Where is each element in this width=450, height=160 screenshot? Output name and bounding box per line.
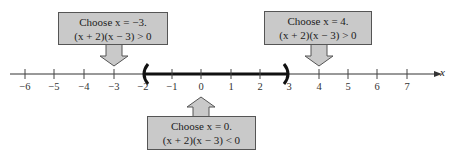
callout-line-2: (x + 2)(x − 3) > 0 bbox=[59, 29, 167, 43]
tick-label: 2 bbox=[250, 81, 270, 92]
callout-line-1: Choose x = −3. bbox=[59, 15, 167, 29]
tick-label: 4 bbox=[309, 81, 329, 92]
tick-label: 1 bbox=[221, 81, 241, 92]
callout-line-2: (x + 2)(x − 3) < 0 bbox=[148, 133, 255, 147]
tick-label: 3 bbox=[279, 81, 299, 92]
callout-test-four: Choose x = 4. (x + 2)(x − 3) > 0 bbox=[264, 11, 372, 45]
callout-arrow-up-icon bbox=[187, 97, 215, 117]
callout-test-negative-three: Choose x = −3. (x + 2)(x − 3) > 0 bbox=[58, 12, 168, 45]
callout-line-1: Choose x = 4. bbox=[265, 14, 371, 28]
callout-arrow-down-icon bbox=[100, 44, 128, 66]
tick-label: −5 bbox=[44, 81, 64, 92]
tick-label: −4 bbox=[74, 81, 94, 92]
tick-label: −3 bbox=[104, 81, 124, 92]
tick-label: 5 bbox=[338, 81, 358, 92]
callout-line-2: (x + 2)(x − 3) > 0 bbox=[265, 28, 371, 42]
tick-label: −1 bbox=[162, 81, 182, 92]
tick-label: −6 bbox=[15, 81, 35, 92]
callout-line-1: Choose x = 0. bbox=[148, 119, 255, 133]
tick-label: 7 bbox=[397, 81, 417, 92]
axis-variable-label: x bbox=[440, 66, 445, 78]
tick-label: 6 bbox=[367, 81, 387, 92]
tick-label: 0 bbox=[191, 81, 211, 92]
callout-test-zero: Choose x = 0. (x + 2)(x − 3) < 0 bbox=[147, 116, 256, 150]
tick-label: −2 bbox=[133, 81, 153, 92]
callout-arrow-down-icon bbox=[305, 44, 333, 66]
